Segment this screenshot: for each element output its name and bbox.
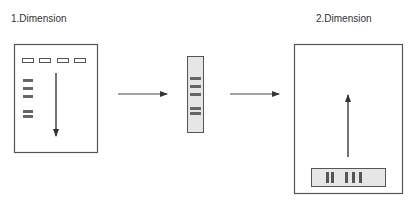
two-dimensional-electrophoresis-diagram	[0, 0, 414, 203]
second-dimension-gel	[295, 45, 403, 194]
loaded-strip	[312, 169, 386, 187]
first-dimension-gel	[15, 45, 98, 153]
excised-lane-strip	[188, 57, 204, 133]
